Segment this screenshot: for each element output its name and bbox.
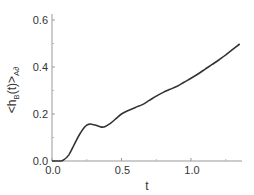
y-label-mid: (t)>: [5, 76, 19, 94]
axes: [52, 14, 242, 161]
x-axis-label: t: [145, 179, 149, 193]
x-tick-label: 0.0: [45, 164, 60, 176]
line-chart: 0.00.20.40.6 0.00.51.0 t <hB(t)>A∂: [0, 0, 254, 195]
y-label-sub2: A∂: [12, 67, 21, 76]
data-line: [52, 44, 240, 161]
y-tick-label: 0.4: [33, 61, 48, 73]
x-tick-label: 1.0: [184, 164, 199, 176]
y-tick-label: 0.2: [33, 108, 48, 120]
svg-text:<hB(t)>A∂: <hB(t)>A∂: [5, 67, 21, 114]
y-tick-label: 0.6: [33, 14, 48, 26]
x-tick-label: 0.5: [115, 164, 130, 176]
y-axis-label: <hB(t)>A∂: [5, 67, 21, 114]
y-label-main: <h: [5, 100, 19, 114]
